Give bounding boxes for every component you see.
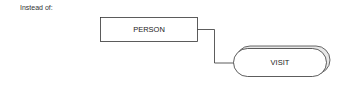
connector-line [198, 30, 235, 64]
diagram-canvas: PERSON VISIT [0, 0, 349, 85]
visit-entity: VISIT [234, 46, 331, 77]
person-label: PERSON [133, 25, 165, 34]
visit-label: VISIT [271, 58, 290, 67]
person-entity: PERSON [101, 18, 198, 42]
